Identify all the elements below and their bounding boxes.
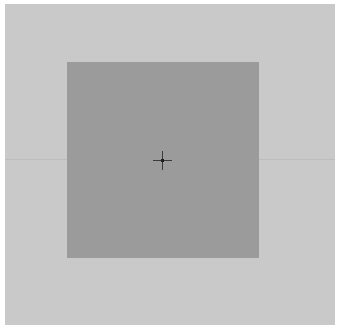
crosshair-center (161, 159, 164, 162)
crosshair-icon (153, 151, 172, 170)
